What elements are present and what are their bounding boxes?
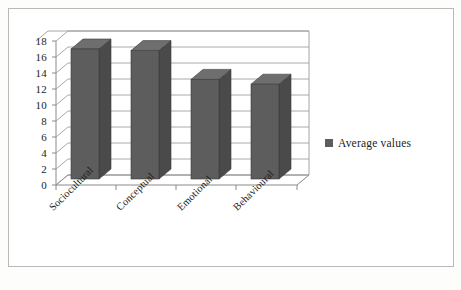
bar-conceptual[interactable] [131, 41, 171, 179]
bar-sociocultural[interactable] [71, 39, 111, 179]
chart-legend: Average values [325, 137, 411, 149]
y-tick-label-4: 4 [25, 148, 47, 159]
y-axis-ticks [52, 41, 56, 185]
y-tick-label-6: 6 [25, 132, 47, 143]
y-tick-label-18: 18 [25, 36, 47, 47]
y-tick-label-16: 16 [25, 52, 47, 63]
page-canvas: 18 16 14 12 10 8 6 4 2 0 Sociocultural C… [0, 0, 461, 290]
y-tick-label-0: 0 [25, 180, 47, 191]
y-tick-label-14: 14 [25, 68, 47, 79]
legend-item-label: Average values [338, 137, 411, 149]
bar-behavioural[interactable] [251, 74, 291, 179]
bar-chart: 18 16 14 12 10 8 6 4 2 0 Sociocultural C… [9, 9, 455, 268]
square-marker-icon [325, 139, 333, 147]
y-tick-label-10: 10 [25, 100, 47, 111]
bar-emotional[interactable] [191, 69, 231, 179]
y-tick-label-8: 8 [25, 116, 47, 127]
back-wall [36, 31, 309, 41]
y-tick-label-12: 12 [25, 84, 47, 95]
y-tick-label-2: 2 [25, 164, 47, 175]
figure-frame: 18 16 14 12 10 8 6 4 2 0 Sociocultural C… [8, 8, 454, 267]
